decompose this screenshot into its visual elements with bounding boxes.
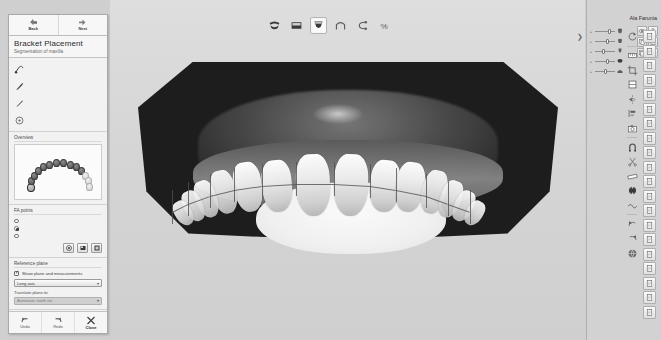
doc-page-16-button[interactable] [643,248,656,261]
collapse-panel-arrow-icon[interactable]: ❯ [577,33,583,41]
layer-opacity-slider[interactable] [595,38,615,44]
page-icon [645,90,654,99]
view-lower-jaw-button[interactable] [310,17,327,34]
redo-view-tool[interactable] [626,232,639,245]
layer-expand-icon[interactable]: + [589,49,593,54]
fa-option-0[interactable] [14,217,102,225]
ruler-tool[interactable] [626,170,639,183]
doc-page-2-button[interactable] [643,45,656,58]
doc-page-12-button[interactable] [643,190,656,203]
align-icon [627,108,638,119]
doc-page-20-button[interactable] [643,306,656,319]
viewport-3d[interactable] [110,0,585,340]
doc-page-9-button[interactable] [643,146,656,159]
crop-tool[interactable] [626,64,639,77]
apply-fa-points-button[interactable] [91,243,102,253]
plane-axis-select[interactable]: Long axis ▾ [14,279,102,287]
show-plane-checkbox-row[interactable]: Show plane and measurements [14,270,102,278]
slider-knob[interactable] [606,59,609,64]
doc-page-15-button[interactable] [643,233,656,246]
bracket-tool[interactable] [626,184,639,197]
tool-item-rotation-center[interactable] [9,112,107,129]
layer-opacity-slider[interactable] [595,48,615,54]
doc-page-17-button[interactable] [643,262,656,275]
fa-option-radio[interactable] [14,219,19,224]
overview-tooth[interactable] [60,159,67,167]
tool-item-define-cut[interactable] [9,78,107,95]
tool-item-set-points[interactable] [9,61,107,78]
doc-page-11-button[interactable] [643,175,656,188]
layer-opacity-slider[interactable] [595,28,615,34]
slider-knob[interactable] [606,39,609,44]
redo-view-icon [627,233,638,244]
fa-option-1[interactable] [14,225,102,233]
doc-page-7-button[interactable] [643,117,656,130]
measure-tool[interactable] [626,49,639,62]
reset-fa-points-button[interactable] [63,243,74,253]
doc-page-1-button[interactable] [643,30,656,43]
page-icon [645,148,654,157]
jaw-icon [616,57,624,65]
next-button-label: Next [78,26,87,31]
back-button[interactable]: Back [9,15,59,35]
layer-expand-icon[interactable]: + [589,69,593,74]
layer-opacity-slider[interactable] [595,58,615,64]
doc-page-14-button[interactable] [643,219,656,232]
align-tool[interactable] [626,107,639,120]
dental-model[interactable] [138,62,558,262]
overview-arch-diagram[interactable] [14,144,102,200]
layer-expand-icon[interactable]: + [589,59,593,64]
panel-header: Bracket Placement Segmentation of maxill… [9,36,107,58]
fa-option-radio[interactable] [14,226,19,231]
slider-knob[interactable] [602,49,605,54]
close-button[interactable]: Close [75,312,107,333]
photo-tool[interactable] [626,122,639,135]
view-bracket-button[interactable]: % [376,17,393,34]
doc-page-19-button[interactable] [643,291,656,304]
show-plane-checkbox[interactable] [14,271,19,276]
bracket-tool-icon [627,185,638,196]
doc-page-4-button[interactable] [643,74,656,87]
slider-knob[interactable] [604,69,607,74]
doc-page-8-button[interactable] [643,132,656,145]
doc-page-3-button[interactable] [643,59,656,72]
layer-opacity-slider[interactable] [595,68,615,74]
doc-page-5-button[interactable] [643,88,656,101]
rotate-tool[interactable] [626,30,639,43]
view-upper-jaw-button[interactable] [266,17,283,34]
layer-expand-icon[interactable]: + [589,29,593,34]
undo-view-tool[interactable] [626,218,639,231]
translate-plane-select[interactable]: Automatic tooth no. ▾ [14,297,102,305]
doc-page-13-button[interactable] [643,204,656,217]
overview-tooth[interactable] [53,159,60,167]
bracket-tick [470,190,471,224]
palate-highlight [313,104,363,124]
redo-button[interactable]: Redo [42,312,75,333]
doc-page-18-button[interactable] [643,277,656,290]
slider-knob[interactable] [608,29,611,34]
view-occlusion-button[interactable] [354,17,371,34]
view-both-jaws-button[interactable] [288,17,305,34]
tooth-3d[interactable] [295,153,331,216]
next-button[interactable]: Next [59,15,108,35]
doc-page-10-button[interactable] [643,161,656,174]
layer-expand-icon[interactable]: + [589,39,593,44]
globe-tool[interactable] [626,247,639,260]
tooth-upper-icon [616,27,624,35]
view-mode-toolbar[interactable]: % [266,15,393,35]
section-tool[interactable] [626,78,639,91]
scissors-tool[interactable] [626,155,639,168]
magnet-tool[interactable] [626,141,639,154]
undo-button[interactable]: Undo [9,312,42,333]
doc-page-6-button[interactable] [643,103,656,116]
fa-option-radio[interactable] [14,234,19,239]
tool-item-sculpt[interactable] [9,95,107,112]
recalculate-fa-points-button[interactable] [77,243,88,253]
mirror-icon [627,94,638,105]
wire-tool[interactable] [626,199,639,212]
overview-tooth[interactable] [86,183,93,191]
tool-separator [627,137,637,138]
mirror-tool[interactable] [626,93,639,106]
fa-option-2[interactable] [14,232,102,240]
view-arch-button[interactable] [332,17,349,34]
